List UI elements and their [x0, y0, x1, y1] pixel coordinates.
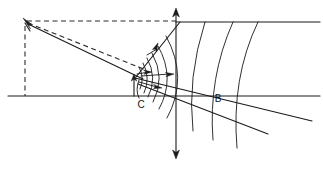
radial-line-right-upper [135, 78, 312, 121]
fan-stem-middle [141, 74, 170, 76]
label-b: B [215, 93, 222, 104]
figure-canvas: C B [0, 0, 323, 170]
wavefront-arc-3 [147, 58, 153, 97]
label-c-leader-line [137, 80, 139, 98]
wavefront-arc-8 [212, 22, 233, 140]
wavefront-diagram: C B [0, 0, 323, 170]
solid-ray-lower [28, 24, 143, 79]
dashed-ray-upper [28, 23, 146, 70]
wavefront-arc-7 [192, 22, 206, 131]
label-c: C [137, 99, 144, 110]
